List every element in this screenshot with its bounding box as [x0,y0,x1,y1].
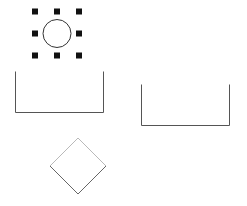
handle-middle-left[interactable] [32,31,38,37]
handle-top-left[interactable] [32,9,38,15]
canvas-vector-surface[interactable] [0,0,247,206]
handle-top-right[interactable] [76,9,82,15]
handle-bottom-left[interactable] [32,53,38,59]
handle-middle-right[interactable] [76,31,82,37]
drawing-canvas[interactable] [0,0,247,206]
handle-top-center[interactable] [54,9,60,15]
handle-bottom-center[interactable] [54,53,60,59]
handle-bottom-right[interactable] [76,53,82,59]
